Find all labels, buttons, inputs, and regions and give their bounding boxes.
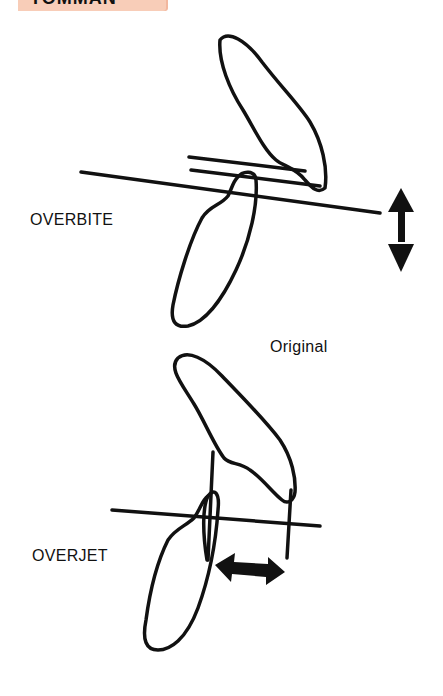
- occlusal-plane-line: [81, 172, 380, 213]
- horizontal-double-arrow-icon: [215, 553, 285, 585]
- upper-incisor-overjet: [175, 355, 296, 502]
- original-label: Original: [270, 338, 328, 356]
- overbite-label: OVERBITE: [30, 211, 113, 229]
- incisal-edge-line-upper: [189, 157, 305, 171]
- overjet-label: OVERJET: [32, 547, 108, 565]
- overjet-vertical-labial: [287, 490, 291, 558]
- dental-diagram: [0, 0, 443, 696]
- vertical-double-arrow-icon: [388, 188, 414, 272]
- overjet-vertical-upper: [208, 452, 213, 560]
